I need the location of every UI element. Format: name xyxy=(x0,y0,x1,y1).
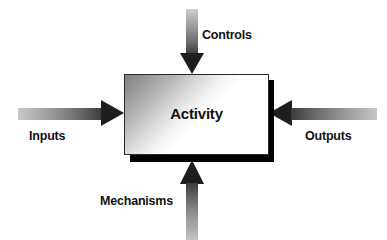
inputs-arrow-right-icon xyxy=(18,101,124,127)
controls-arrow-shaft xyxy=(186,9,198,54)
mechanisms-arrow-head xyxy=(180,160,204,184)
inputs-arrow-shaft xyxy=(18,108,102,120)
diagram-canvas: Controls Inputs Outputs Mechanisms Activ… xyxy=(0,0,387,240)
controls-arrow-head xyxy=(180,53,204,74)
mechanisms-arrow-up-icon xyxy=(183,160,211,240)
controls-label: Controls xyxy=(202,29,252,42)
activity-box: Activity xyxy=(124,74,269,155)
outputs-label: Outputs xyxy=(305,130,352,143)
inputs-arrow-head xyxy=(101,100,124,126)
mechanisms-arrow-shaft xyxy=(186,183,198,240)
inputs-label: Inputs xyxy=(29,130,65,143)
outputs-arrow-shaft xyxy=(291,108,377,120)
mechanisms-label: Mechanisms xyxy=(100,195,173,208)
outputs-arrow-left-icon xyxy=(269,101,377,127)
activity-box-label: Activity xyxy=(125,105,268,122)
